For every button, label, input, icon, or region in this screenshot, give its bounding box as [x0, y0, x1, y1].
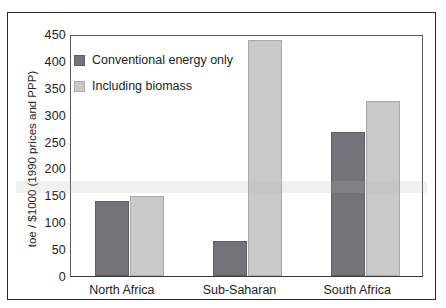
y-axis-tick-labels: 050100150200250300350400450	[22, 35, 66, 277]
y-tick-label: 50	[52, 243, 66, 257]
figure-container: toe / $1000 (1990 prices and PPP) 050100…	[0, 0, 446, 308]
legend-swatch-icon	[74, 81, 85, 92]
y-tick-label: 400	[45, 55, 66, 69]
bar	[213, 241, 247, 276]
y-tick-label: 300	[45, 109, 66, 123]
legend-item: Including biomass	[74, 79, 233, 93]
x-tick-label: South Africa	[297, 283, 417, 297]
y-tick-label: 0	[59, 270, 66, 284]
bar	[331, 132, 365, 276]
bar	[248, 40, 282, 276]
legend-swatch-icon	[74, 55, 85, 66]
y-tick-label: 150	[45, 189, 66, 203]
legend-item: Conventional energy only	[74, 53, 233, 67]
y-tick-label: 250	[45, 136, 66, 150]
bar	[130, 196, 164, 276]
y-tick-label: 350	[45, 82, 66, 96]
legend-label: Including biomass	[92, 79, 192, 93]
x-tick-label: Sub-Saharan	[180, 283, 300, 297]
chart-legend: Conventional energy onlyIncluding biomas…	[74, 53, 233, 105]
figure-frame: toe / $1000 (1990 prices and PPP) 050100…	[7, 12, 436, 300]
y-tick-label: 100	[45, 216, 66, 230]
y-tick-label: 450	[45, 28, 66, 42]
legend-label: Conventional energy only	[92, 53, 233, 67]
bar	[366, 101, 400, 276]
y-tick-label: 200	[45, 162, 66, 176]
x-tick-label: North Africa	[62, 283, 182, 297]
bar	[95, 201, 129, 276]
clipped-caption-sliver	[70, 0, 370, 7]
